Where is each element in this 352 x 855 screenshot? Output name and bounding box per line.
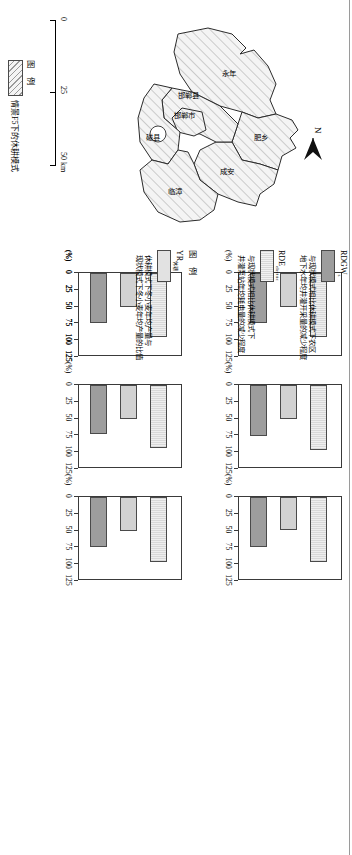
bar (310, 385, 327, 450)
axis-tick-label: 125 (224, 574, 233, 585)
bar-panel: 成安县0255075100125(%) (38, 474, 186, 580)
scale-tick-0: 0 (59, 17, 68, 21)
axis-tick-label: 50 (64, 526, 73, 534)
axis-tick (74, 530, 78, 531)
axis-tick (234, 580, 238, 581)
scale-tick-25: 25 (59, 86, 68, 94)
bar (90, 385, 107, 434)
map-panel: N (8, 6, 344, 242)
axis-tick-label: 100 (64, 333, 73, 344)
rdgw-line-1: 与现状模式相比休耕模式下农区 (308, 255, 317, 353)
yr-symbol-wrap: YR休耕 (173, 250, 184, 370)
rdgw-line-2: 地下水年均井灌开采量的减少程度 (299, 255, 308, 360)
bar-plot-area (238, 496, 342, 580)
axis-tick (74, 322, 78, 323)
svg-text:永年: 永年 (222, 69, 237, 78)
axis-tick-label: 50 (224, 526, 233, 534)
axis-tick (74, 384, 78, 385)
rde-legend-text: 与现状模式相比休耕模式下 井灌泵站年均耗电量的减少程度 (237, 255, 256, 353)
rde-line-1: 与现状模式相比休耕模式下 (247, 255, 256, 339)
yr-legend: 图 例 YR休耕 休耕模式下冬小麦年均产量与 现状模式下冬小麦年均产量的比值 (142, 250, 200, 370)
axis-tick (234, 434, 238, 435)
rdgw-symbol-sub: s (337, 274, 342, 276)
bar (310, 497, 327, 562)
axis-tick (74, 418, 78, 419)
yr-legend-text: 休耕模式下冬小麦年均产量与 现状模式下冬小麦年均产量的比值 (134, 255, 153, 360)
axis-tick-label: 0 (64, 382, 73, 386)
rde-symbol: RDE (277, 250, 286, 266)
axis-unit-label: (%) (64, 362, 73, 373)
rde-legend-row: RDEelectric 与现状模式相比休耕模式下 井灌泵站年均耗电量的减少程度 (237, 250, 287, 370)
bar (250, 385, 267, 436)
axis-tick (74, 546, 78, 547)
bar (150, 385, 167, 448)
axis-tick (74, 468, 78, 469)
bar (280, 385, 297, 419)
yr-legend-row: YR休耕 休耕模式下冬小麦年均产量与 现状模式下冬小麦年均产量的比值 (134, 250, 184, 370)
axis-tick-label: 25 (224, 397, 233, 405)
axis-tick (234, 468, 238, 469)
axis-tick-label: 25 (64, 285, 73, 293)
rde-legend-swatch (260, 250, 274, 282)
bar (120, 497, 137, 531)
axis-tick-label: 75 (224, 543, 233, 551)
svg-text:邯郸市: 邯郸市 (174, 111, 196, 120)
rd-legend: RDGWs 与现状模式相比休耕模式下农区 地下水年均井灌开采量的减少程度 RDE… (202, 250, 352, 370)
axis-tick-label: 125 (64, 350, 73, 361)
axis-unit-label: (%) (224, 474, 233, 485)
axis-tick (74, 563, 78, 564)
svg-text:肥乡: 肥乡 (254, 133, 268, 142)
map-legend-item-label: 情景F5下的休耕模式 (10, 100, 21, 172)
axis-tick-label: 75 (64, 431, 73, 439)
bar-panel: 邯郸县0255075100125(%) (198, 362, 346, 468)
axis-tick-label: 0 (224, 494, 233, 498)
yr-symbol: YR (175, 250, 184, 261)
bar-plot-area (78, 496, 182, 580)
rde-symbol-sub: electric (276, 266, 281, 281)
bar (90, 497, 107, 547)
county-map: 永年 肥乡 成安 邯郸县 邯郸市 磁县 临漳 (74, 14, 304, 236)
yr-desc-2: 现状模式下冬小麦年均产量的比值 (135, 255, 144, 360)
rdgw-symbol-wrap: RDGWs (337, 250, 348, 370)
axis-tick (74, 339, 78, 340)
axis-tick (234, 384, 238, 385)
axis-tick (74, 434, 78, 435)
bar-panel: 肥乡县0255075100125(%) (198, 474, 346, 580)
north-label: N (313, 127, 323, 134)
yr-symbol-sub: 休耕 (173, 261, 178, 271)
map-legend: 图 例 情景F5下的休耕模式 (4, 20, 38, 240)
yr-desc-1: 休耕模式下冬小麦年均产量与 (144, 255, 153, 346)
axis-tick (234, 418, 238, 419)
axis-tick-label: 25 (64, 509, 73, 517)
bar (90, 273, 107, 323)
axis-tick (234, 401, 238, 402)
axis-tick-label: 75 (224, 431, 233, 439)
axis-tick-label: 25 (64, 397, 73, 405)
axis-tick (234, 530, 238, 531)
bar (150, 497, 167, 562)
yr-legend-title: 图 例 (188, 250, 200, 370)
axis-tick-label: 100 (64, 445, 73, 456)
axis-tick-label: 0 (224, 382, 233, 386)
axis-unit-label: (%) (64, 250, 73, 261)
axis-tick (74, 513, 78, 514)
axis-tick-label: 125 (224, 462, 233, 473)
svg-text:临漳: 临漳 (168, 187, 183, 196)
bar-plot-area (78, 384, 182, 468)
bar (250, 497, 267, 547)
bar-plot-area (238, 384, 342, 468)
axis-tick-label: 50 (64, 302, 73, 310)
scale-tick-50: 50 km (59, 152, 68, 172)
axis-tick (74, 289, 78, 290)
axis-tick (234, 563, 238, 564)
map-legend-swatch-hatch (8, 60, 23, 96)
svg-text:磁县: 磁县 (146, 133, 160, 142)
axis-tick (234, 513, 238, 514)
axis-tick (234, 496, 238, 497)
rde-symbol-wrap: RDEelectric (276, 250, 287, 370)
axis-tick-label: 0 (64, 494, 73, 498)
axis-tick (234, 546, 238, 547)
top-rule (349, 0, 350, 855)
axis-tick (74, 496, 78, 497)
svg-text:成安: 成安 (220, 167, 234, 176)
